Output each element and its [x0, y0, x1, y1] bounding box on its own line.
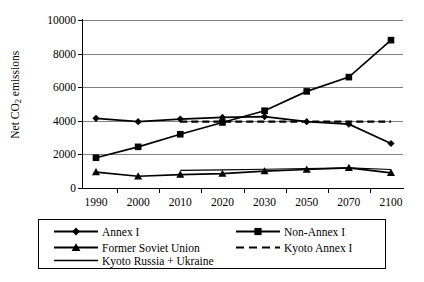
y-tick-label: 6000 — [53, 81, 76, 93]
y-axis-title-container: Net CO2 emissions — [0, 0, 22, 200]
plot-area: 0200040006000800010000 19902000201020202… — [82, 20, 403, 188]
x-tick-mark — [117, 188, 118, 193]
x-tick-label: 2000 — [127, 196, 150, 208]
legend-marker-diamond — [72, 228, 80, 236]
data-point-marker — [388, 37, 395, 44]
x-tick-mark — [244, 188, 245, 193]
series-former-soviet-union — [92, 164, 395, 180]
data-point-marker — [303, 88, 310, 95]
y-tick-label: 0 — [70, 182, 76, 194]
series-annex-i — [92, 113, 394, 147]
x-tick-label: 2050 — [295, 196, 318, 208]
x-tick-mark — [201, 188, 202, 193]
legend-sample-line-square-icon — [235, 225, 281, 238]
y-tick-label: 10000 — [47, 14, 76, 26]
y-tick-mark — [78, 188, 83, 189]
y-tick-label: 4000 — [53, 115, 76, 127]
legend-sample-line-dashed-icon — [235, 241, 281, 254]
legend-marker-square — [254, 228, 261, 235]
data-point-marker — [135, 144, 142, 151]
x-tick-mark — [328, 188, 329, 193]
legend-sample-line-diamond-icon — [53, 225, 99, 238]
data-point-marker — [177, 131, 184, 138]
x-tick-label: 2100 — [380, 196, 403, 208]
series-layer — [82, 20, 403, 188]
legend-item-annex-i[interactable]: Annex I — [53, 224, 139, 239]
legend-label: Kyoto Annex I — [284, 242, 352, 254]
x-tick-label: 2020 — [211, 196, 234, 208]
legend-label: Annex I — [102, 226, 139, 238]
legend-item-non-annex-i[interactable]: Non-Annex I — [235, 224, 345, 239]
legend-label: Non-Annex I — [284, 226, 345, 238]
data-point-marker — [92, 115, 99, 122]
data-point-marker — [93, 154, 100, 161]
y-axis-title-suffix: emissions — [9, 51, 21, 99]
data-point-marker — [261, 107, 268, 114]
x-tick-mark — [370, 188, 371, 193]
legend-label: Kyoto Russia + Ukraine — [102, 255, 214, 267]
data-point-marker — [261, 113, 268, 120]
legend-sample-line-plain-icon — [53, 254, 99, 267]
series-non-annex-i — [93, 37, 395, 161]
x-tick-label: 2010 — [169, 196, 192, 208]
series-line — [96, 40, 391, 158]
data-point-marker — [387, 140, 394, 147]
y-axis-title-subscript: 2 — [13, 99, 23, 103]
x-tick-mark — [159, 188, 160, 193]
y-tick-label: 2000 — [53, 148, 76, 160]
chart-legend: Annex INon-Annex IFormer Soviet UnionKyo… — [38, 219, 386, 269]
data-point-marker — [135, 118, 142, 125]
legend-item-kyoto-russia-ukraine[interactable]: Kyoto Russia + Ukraine — [53, 253, 214, 268]
x-tick-label: 2030 — [253, 196, 276, 208]
x-tick-label: 2070 — [337, 196, 360, 208]
legend-label: Former Soviet Union — [102, 242, 200, 254]
x-tick-label: 1990 — [85, 196, 108, 208]
y-axis-title: Net CO2 emissions — [9, 15, 23, 175]
legend-item-kyoto-annex-i[interactable]: Kyoto Annex I — [235, 240, 352, 255]
y-axis-title-prefix: Net CO — [9, 103, 21, 138]
chart-figure: Net CO2 emissions 0200040006000800010000… — [0, 0, 424, 282]
data-point-marker — [346, 74, 353, 81]
y-tick-label: 8000 — [53, 48, 76, 60]
x-tick-mark — [286, 188, 287, 193]
